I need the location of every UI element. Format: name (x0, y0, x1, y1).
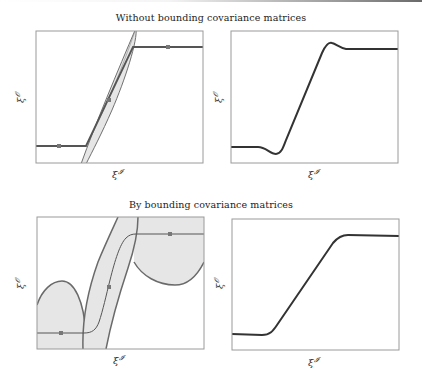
x-axis-label: ξ𝓘 (308, 168, 321, 180)
y-axis-label: ξ𝓞 (213, 277, 225, 289)
x-axis-label: ξ𝓘 (308, 356, 321, 368)
panel-bottom-left: ξ𝓘 ξ𝓞 (14, 217, 204, 366)
x-axis-label: ξ𝓘 (112, 168, 125, 180)
prior-curve (36, 47, 203, 146)
uncertainty-ellipse (81, 28, 136, 164)
panel-top-right: ξ𝓘 ξ𝓞 (212, 31, 398, 180)
result-curve (231, 43, 398, 154)
marker (107, 98, 111, 102)
axes-frame (36, 31, 203, 163)
panel-top-left: ξ𝓘 ξ𝓞 (14, 28, 203, 180)
axes-frame (231, 31, 398, 163)
axes-frame (232, 219, 399, 350)
marker (107, 285, 111, 289)
figure-canvas: ξ𝓘 ξ𝓞 ξ𝓘 ξ𝓞 ξ𝓘 ξ𝓞 (0, 0, 422, 374)
marker (57, 144, 61, 148)
marker (168, 232, 172, 236)
marker (166, 45, 170, 49)
x-axis-label: ξ𝓘 (113, 354, 126, 366)
y-axis-label: ξ𝓞 (212, 91, 224, 103)
result-curve (232, 235, 399, 335)
marker (59, 331, 63, 335)
y-axis-label: ξ𝓞 (14, 91, 26, 103)
y-axis-label: ξ𝓞 (14, 277, 26, 289)
panel-bottom-right: ξ𝓘 ξ𝓞 (213, 219, 399, 368)
